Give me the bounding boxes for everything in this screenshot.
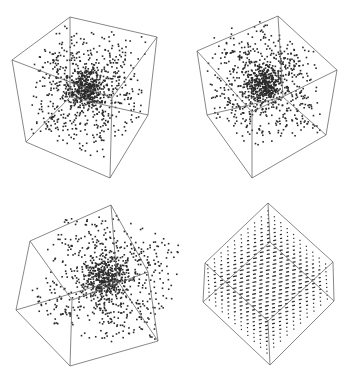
cube-plot-top-left [12,17,157,178]
cube-plot-bottom-left [16,205,179,366]
data-points [32,215,179,342]
chart-canvas [0,0,348,378]
cube-plot-bottom-right [203,203,334,365]
cube-wireframe [16,205,158,366]
cube-wireframe [197,16,337,178]
cube-plot-top-right [197,16,337,178]
data-points [31,26,146,158]
